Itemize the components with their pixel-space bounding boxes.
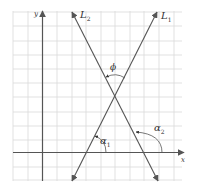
y-axis-label: y [33, 10, 39, 18]
line-l2-label: L2 [79, 9, 91, 22]
alpha2-arc [136, 132, 162, 153]
phi-label: ϕ [110, 62, 116, 72]
coordinate-diagram: x y L1 L2 ϕ α1 α2 [0, 0, 197, 189]
x-axis-label: x [181, 156, 185, 164]
phi-arc [106, 75, 125, 78]
grid [13, 11, 182, 181]
